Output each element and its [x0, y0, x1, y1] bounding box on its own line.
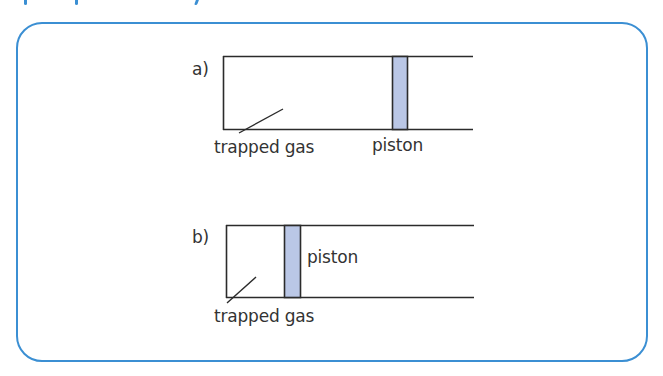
figure-b-tag: b) — [192, 227, 209, 247]
figure-b-trapped-gas-label: trapped gas — [214, 306, 314, 326]
figure-a-tag: a) — [192, 59, 209, 79]
diagram-canvas: a) trapped gas piston b) piston trapped … — [0, 0, 663, 376]
figure-b-gas-leader-line — [227, 277, 256, 303]
figure-a-cylinder — [223, 56, 473, 133]
cylinder-diagrams — [0, 0, 663, 376]
figure-a-trapped-gas-label: trapped gas — [214, 137, 314, 157]
figure-b-piston — [285, 226, 301, 298]
figure-a-piston — [393, 57, 408, 130]
figure-b-piston-label: piston — [307, 247, 358, 267]
figure-a-piston-label: piston — [372, 135, 423, 155]
